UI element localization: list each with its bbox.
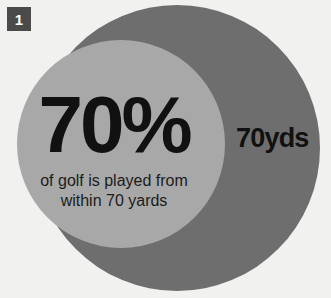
- stat-caption-line-1: of golf is played from: [40, 172, 188, 189]
- panel-number-label: 1: [15, 12, 23, 27]
- stat-block: 70% of golf is played from within 70 yar…: [14, 88, 214, 212]
- panel-number-badge: 1: [7, 7, 31, 31]
- infographic-panel: 1 70% of golf is played from within 70 y…: [0, 0, 331, 298]
- stat-caption: of golf is played from within 70 yards: [14, 171, 214, 212]
- outer-ring-distance-label: 70yds: [236, 125, 309, 152]
- stat-caption-line-2: within 70 yards: [61, 192, 168, 209]
- stat-percentage-value: 70%: [14, 88, 214, 162]
